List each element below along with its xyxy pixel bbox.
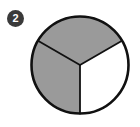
pie-svg: [0, 0, 140, 127]
figure-container: 2: [0, 0, 140, 127]
pie-diagram: [0, 0, 140, 127]
